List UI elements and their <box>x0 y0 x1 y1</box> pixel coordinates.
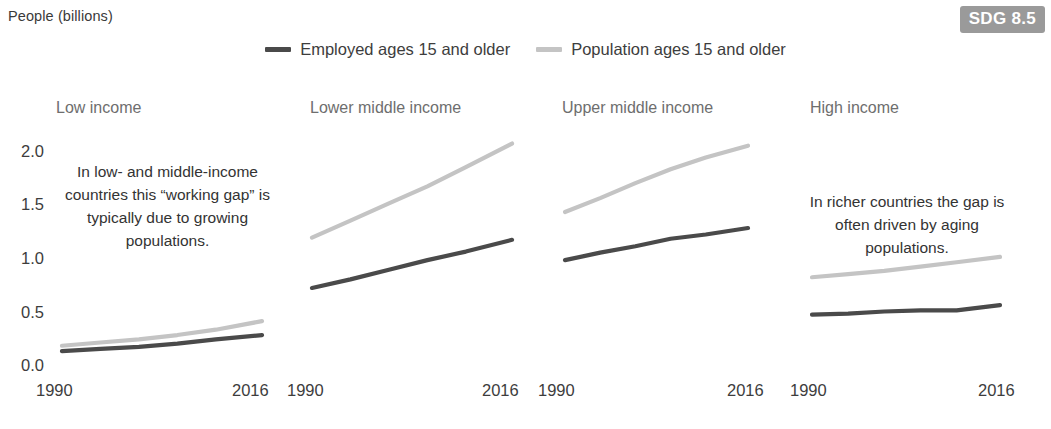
legend-label-employed: Employed ages 15 and older <box>300 40 510 59</box>
annotation-low-middle-income: In low- and middle-income countries this… <box>50 160 285 252</box>
legend-swatch-icon-population <box>536 47 562 52</box>
x-tick-end-panel-4: 2016 <box>978 381 1015 400</box>
y-axis: 2.0 1.5 1.0 0.5 0.0 <box>0 0 52 429</box>
series-line-employed-panel-1 <box>62 335 262 351</box>
legend-swatch-icon-employed <box>265 47 291 52</box>
legend-label-population: Population ages 15 and older <box>571 40 786 59</box>
x-tick-end-panel-2: 2016 <box>482 381 519 400</box>
x-tick-start-panel-4: 1990 <box>790 381 827 400</box>
x-tick-start-panel-3: 1990 <box>538 381 575 400</box>
y-tick-2-0: 2.0 <box>21 142 44 161</box>
y-tick-0-5: 0.5 <box>21 303 44 322</box>
series-line-employed-panel-2 <box>312 240 512 288</box>
series-line-employed-panel-4 <box>812 305 1000 315</box>
chart-legend: Employed ages 15 and older Population ag… <box>0 40 1051 59</box>
panel-title-high-income: High income <box>810 99 899 117</box>
annotation-high-income: In richer countries the gap is often dri… <box>808 190 1006 259</box>
x-tick-start-panel-1: 1990 <box>36 381 73 400</box>
series-line-population-panel-3 <box>565 146 748 212</box>
x-tick-end-panel-1: 2016 <box>232 381 269 400</box>
y-tick-1-0: 1.0 <box>21 249 44 268</box>
y-tick-1-5: 1.5 <box>21 195 44 214</box>
y-tick-0-0: 0.0 <box>21 356 44 375</box>
series-line-employed-panel-3 <box>565 228 748 260</box>
series-line-population-panel-1 <box>62 321 262 346</box>
panel-title-low-income: Low income <box>56 99 141 117</box>
panel-title-upper-middle-income: Upper middle income <box>562 99 713 117</box>
panel-title-lower-middle-income: Lower middle income <box>310 99 461 117</box>
legend-item-employed[interactable]: Employed ages 15 and older <box>265 40 510 59</box>
legend-item-population[interactable]: Population ages 15 and older <box>536 40 786 59</box>
series-line-population-panel-2 <box>312 144 512 238</box>
x-tick-start-panel-2: 1990 <box>287 381 324 400</box>
x-tick-end-panel-3: 2016 <box>727 381 764 400</box>
status-badge: SDG 8.5 <box>960 6 1045 33</box>
series-line-population-panel-4 <box>812 257 1000 277</box>
